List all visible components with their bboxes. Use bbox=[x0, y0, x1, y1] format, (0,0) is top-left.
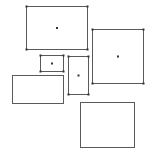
rectangle-shape[interactable] bbox=[40, 55, 65, 73]
rectangle-shape[interactable] bbox=[26, 6, 89, 51]
center-point-icon[interactable] bbox=[51, 63, 53, 65]
rectangle-shape[interactable] bbox=[68, 56, 90, 96]
resize-handle-icon[interactable] bbox=[63, 55, 65, 57]
resize-handle-icon[interactable] bbox=[143, 29, 145, 31]
center-point-icon[interactable] bbox=[56, 27, 58, 29]
diagram-canvas[interactable] bbox=[0, 0, 150, 155]
resize-handle-icon[interactable] bbox=[68, 94, 70, 96]
resize-handle-icon[interactable] bbox=[40, 55, 42, 57]
rectangle-shape[interactable] bbox=[81, 103, 135, 148]
center-point-icon[interactable] bbox=[117, 56, 119, 58]
resize-handle-icon[interactable] bbox=[92, 83, 94, 85]
rectangle-outline[interactable] bbox=[81, 103, 135, 148]
resize-handle-icon[interactable] bbox=[87, 49, 89, 51]
resize-handle-icon[interactable] bbox=[68, 56, 70, 58]
resize-handle-icon[interactable] bbox=[88, 94, 90, 96]
center-point-icon[interactable] bbox=[78, 75, 80, 77]
rectangle-shape[interactable] bbox=[13, 76, 64, 104]
rectangle-shape[interactable] bbox=[92, 29, 145, 85]
resize-handle-icon[interactable] bbox=[26, 6, 28, 8]
resize-handle-icon[interactable] bbox=[40, 71, 42, 73]
resize-handle-icon[interactable] bbox=[63, 71, 65, 73]
resize-handle-icon[interactable] bbox=[88, 56, 90, 58]
resize-handle-icon[interactable] bbox=[143, 83, 145, 85]
rectangle-outline[interactable] bbox=[13, 76, 64, 104]
resize-handle-icon[interactable] bbox=[26, 49, 28, 51]
resize-handle-icon[interactable] bbox=[87, 6, 89, 8]
resize-handle-icon[interactable] bbox=[92, 29, 94, 31]
